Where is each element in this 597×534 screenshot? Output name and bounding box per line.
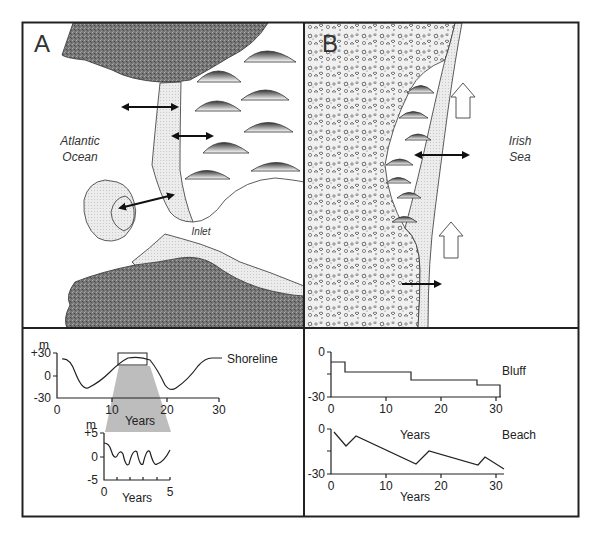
series-label-beach: Beach [502,428,536,442]
beach-x-0: 0 [328,479,335,493]
x-tick-30: 30 [212,403,226,417]
x-tick-0: 0 [54,403,61,417]
panel-b-letter: B [322,30,338,57]
ebb-tidal-delta [84,180,136,241]
mainland-coast [193,178,304,222]
x-axis-label: Years [125,414,155,428]
ocean-label: Ocean [62,150,98,164]
beach-y-bot: -30 [308,467,326,481]
shoreline-chart: m +30 0 -30 0 10 20 30 Years Shoreline [31,338,278,432]
y-tick-top: +30 [31,346,52,360]
longshore-up-arrow-2 [439,222,463,258]
beach-x-30: 30 [489,479,503,493]
inset-curve [104,443,170,465]
bluff-y-top: 0 [318,345,325,359]
y-tick-mid: 0 [44,369,51,383]
atlantic-label: Atlantic [59,134,99,148]
bottom-headland-rock [65,257,304,330]
inset-y-mid: 0 [91,450,98,464]
inset-x-0: 0 [101,485,108,499]
zoom-box [118,353,147,365]
longshore-up-arrow-1 [451,83,475,118]
bluff-curve [331,362,500,397]
x-tick-20: 20 [160,403,174,417]
barrier-island [152,82,193,222]
bluff-y-bot: -30 [308,390,326,404]
x-tick-10: 10 [105,403,119,417]
bluff-x-20: 20 [434,402,448,416]
sea-label: Sea [509,150,531,164]
bluff-x-0: 0 [328,402,335,416]
y-tick-bot: -30 [34,391,52,405]
top-headland-rock [62,23,268,82]
irish-label: Irish [509,134,532,148]
bluff-x-10: 10 [379,402,393,416]
bluff-chart: 0 -30 0 10 20 30 Bluff [308,345,527,416]
series-label-bluff: Bluff [502,364,526,378]
inlet-label: Inlet [192,226,212,237]
beach-chart: 0 -30 0 10 20 30 Years Years Beach [308,422,536,504]
inset-y-top: +5 [84,426,98,440]
beach-y-top: 0 [318,422,325,436]
beach-x-20: 20 [434,479,448,493]
bluff-x-30: 30 [489,402,503,416]
series-label-shoreline: Shoreline [227,352,278,366]
panel-a-letter: A [34,30,50,57]
inset-y-bot: -5 [87,473,98,487]
panel-a-map: A Atlantic Ocean Inlet [34,23,304,330]
inset-x-5: 5 [167,485,174,499]
panel-b-map: B Irish Sea [304,23,532,328]
bluff-x-label: Years [400,428,430,442]
beach-x-10: 10 [379,479,393,493]
figure: A Atlantic Ocean Inlet [0,0,597,534]
inset-x-label: Years [122,491,152,505]
beach-x-label: Years [400,490,430,504]
